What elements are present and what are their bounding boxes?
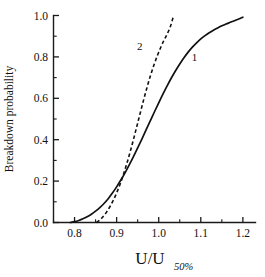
- chart-labels: 0.80.91.01.11.20.00.20.40.60.81.012U/U50…: [3, 10, 250, 273]
- y-tick-label: 0.0: [34, 217, 49, 229]
- curve-label-2: 2: [137, 40, 143, 52]
- x-tick-label: 1.1: [194, 227, 209, 239]
- x-axis-title: U/U50%: [135, 249, 193, 272]
- y-tick-label: 0.2: [34, 175, 49, 187]
- x-tick-label: 0.9: [109, 227, 124, 239]
- y-tick-label: 0.4: [34, 134, 49, 146]
- x-axis-title-main: U/U: [135, 249, 164, 268]
- y-tick-label: 1.0: [34, 10, 49, 22]
- data-curves: [70, 17, 243, 222]
- curve-2: [96, 18, 173, 223]
- breakdown-probability-chart: 0.80.91.01.11.20.00.20.40.60.81.012U/U50…: [0, 0, 265, 277]
- curve-label-1: 1: [192, 51, 198, 63]
- chart-canvas: 0.80.91.01.11.20.00.20.40.60.81.012U/U50…: [0, 0, 265, 277]
- y-tick-label: 0.6: [34, 92, 49, 104]
- x-axis-title-subscript: 50%: [174, 261, 194, 272]
- y-axis-title: Breakdown probability: [3, 66, 16, 173]
- x-tick-label: 1.2: [236, 227, 251, 239]
- axes: [54, 16, 256, 223]
- y-tick-label: 0.8: [34, 51, 49, 63]
- x-tick-label: 0.8: [67, 227, 82, 239]
- x-tick-label: 1.0: [152, 227, 167, 239]
- curve-1: [70, 17, 243, 222]
